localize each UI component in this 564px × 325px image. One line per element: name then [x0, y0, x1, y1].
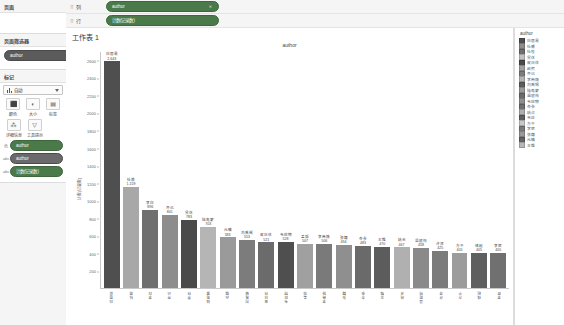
bar-column[interactable]: 温庭筠458: [411, 52, 430, 288]
bar[interactable]: [374, 247, 390, 288]
bar[interactable]: [104, 61, 120, 288]
bar-column[interactable]: 陆龟蒙703: [199, 52, 218, 288]
columns-shelf-pill-author[interactable]: author✕: [106, 1, 219, 12]
marks-pill-color-author[interactable]: author: [10, 140, 63, 151]
bar-column[interactable]: 李贺405: [489, 52, 508, 288]
bar[interactable]: [142, 210, 158, 288]
marks-pill-label-author[interactable]: author: [10, 153, 63, 164]
bar[interactable]: [239, 240, 255, 288]
bar-column[interactable]: 元稹583: [218, 52, 237, 288]
x-axis-label-cell[interactable]: 王维: [372, 289, 391, 325]
worksheet-title[interactable]: 工作表 1: [66, 28, 513, 42]
bar-column[interactable]: 杜甫1,159: [121, 52, 140, 288]
x-axis-label-cell[interactable]: 岑参: [353, 289, 372, 325]
x-axis-label-cell[interactable]: 皮日休: [256, 289, 275, 325]
legend-item[interactable]: 赵熙: [519, 66, 561, 71]
marks-tooltip-button[interactable]: ▽ 工具提示: [26, 119, 43, 138]
x-axis-label-cell[interactable]: 李商隐: [314, 289, 333, 325]
x-axis-label-cell[interactable]: 贯休: [179, 289, 198, 325]
bar-column[interactable]: 齐己841: [160, 52, 179, 288]
bar[interactable]: [258, 242, 274, 288]
rows-shelf[interactable]: ⠿ 行 计数(记录数): [66, 14, 564, 28]
bar[interactable]: [471, 253, 487, 288]
x-axis-label-cell[interactable]: 孟郊: [295, 289, 314, 325]
bar[interactable]: [181, 220, 197, 288]
bar[interactable]: [297, 244, 313, 288]
x-axis-label-cell[interactable]: 白居易: [101, 289, 120, 325]
bar-column[interactable]: 岑参483: [353, 52, 372, 288]
mark-type-select[interactable]: 自动: [3, 85, 63, 95]
legend-item[interactable]: 温庭筠: [519, 93, 561, 98]
x-axis-label-cell[interactable]: 刘禹锡: [237, 289, 256, 325]
bar-column[interactable]: 孟郊507: [295, 52, 314, 288]
close-icon[interactable]: ✕: [209, 3, 212, 10]
legend-item[interactable]: 皮日休: [519, 60, 561, 65]
chevron-down-icon[interactable]: [55, 89, 59, 92]
legend-item[interactable]: 杜牧: [519, 49, 561, 54]
bar-column[interactable]: 张籍494: [334, 52, 353, 288]
legend-item[interactable]: 白居易: [519, 38, 561, 43]
bar[interactable]: [394, 247, 410, 288]
bar[interactable]: [432, 251, 448, 288]
x-axis-label-cell[interactable]: 陆龟蒙: [198, 289, 217, 325]
bar-column[interactable]: 许浑425: [431, 52, 450, 288]
legend-item[interactable]: 元稹: [519, 137, 561, 142]
legend-item[interactable]: 姚合: [519, 110, 561, 115]
legend-item[interactable]: 王维: [519, 143, 561, 148]
x-axis-label-cell[interactable]: 姚合: [392, 289, 411, 325]
marks-size-button[interactable]: ◐ 大小: [25, 98, 42, 117]
legend-item[interactable]: 李贺: [519, 126, 561, 131]
bar[interactable]: [220, 237, 236, 288]
x-axis-label-cell[interactable]: 钱起: [469, 289, 488, 325]
bar[interactable]: [490, 253, 506, 288]
marks-color-button[interactable]: ⬛ 颜色: [5, 98, 22, 117]
bar-column[interactable]: 贯休783: [179, 52, 198, 288]
x-axis-label-cell[interactable]: 杜甫: [120, 289, 139, 325]
legend-item[interactable]: 方干: [519, 121, 561, 126]
legend-item[interactable]: 齐己: [519, 71, 561, 76]
x-axis-label-cell[interactable]: 张籍: [334, 289, 353, 325]
bar[interactable]: [278, 242, 294, 288]
bar-column[interactable]: 方干405: [450, 52, 469, 288]
bar-column[interactable]: 王维470: [373, 52, 392, 288]
bar-column[interactable]: 韦应物528: [276, 52, 295, 288]
bar-column[interactable]: 皮日休521: [257, 52, 276, 288]
bar-column[interactable]: 李白896: [141, 52, 160, 288]
x-axis-label-cell[interactable]: 齐己: [159, 289, 178, 325]
x-axis-label-cell[interactable]: 李贺: [489, 289, 508, 325]
bar-column[interactable]: 白居易2,643: [102, 52, 121, 288]
bar[interactable]: [316, 244, 332, 288]
marks-pill-label-count[interactable]: 计数(记录数): [10, 166, 63, 177]
bar[interactable]: [452, 253, 468, 288]
bar-column[interactable]: 姚合467: [392, 52, 411, 288]
legend-item[interactable]: 贯休: [519, 55, 561, 60]
legend-item[interactable]: 李商隐: [519, 77, 561, 82]
bar[interactable]: [355, 246, 371, 288]
legend-item[interactable]: 刘禹锡: [519, 82, 561, 87]
pages-panel-body[interactable]: [0, 12, 66, 33]
bar[interactable]: [336, 245, 352, 288]
x-axis-label-cell[interactable]: 元稹: [217, 289, 236, 325]
bar[interactable]: [123, 187, 139, 288]
rows-shelf-pill-count[interactable]: 计数(记录数): [106, 15, 219, 26]
bar-column[interactable]: 刘禹锡553: [237, 52, 256, 288]
columns-shelf[interactable]: ⠿ 列 author✕: [66, 0, 564, 14]
legend-item[interactable]: 韦应物: [519, 99, 561, 104]
x-axis-label-cell[interactable]: 李白: [140, 289, 159, 325]
bar[interactable]: [413, 248, 429, 288]
marks-label-button[interactable]: ▤ 标签: [45, 98, 62, 117]
legend-item[interactable]: 韦庄: [519, 115, 561, 120]
bar[interactable]: [200, 227, 216, 288]
bar-column[interactable]: 李商隐506: [315, 52, 334, 288]
filters-panel-body[interactable]: author: [0, 46, 66, 69]
legend-item[interactable]: 张籍: [519, 132, 561, 137]
x-axis-label-cell[interactable]: 韦应物: [275, 289, 294, 325]
x-axis-label-cell[interactable]: 温庭筠: [411, 289, 430, 325]
x-axis-label-cell[interactable]: 许浑: [430, 289, 449, 325]
legend-item[interactable]: 陆龟蒙: [519, 88, 561, 93]
bar[interactable]: [162, 215, 178, 289]
x-axis-label-cell[interactable]: 方干: [450, 289, 469, 325]
legend-item[interactable]: 岑参: [519, 104, 561, 109]
bar-column[interactable]: 钱起405: [469, 52, 488, 288]
legend-item[interactable]: 杜甫: [519, 44, 561, 49]
